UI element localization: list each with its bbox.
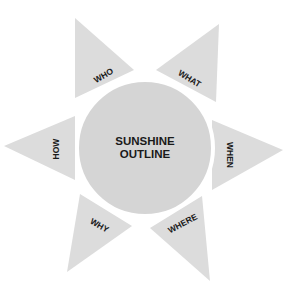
sunshine-outline-diagram: SUNSHINE OUTLINE WHO WHAT WHEN WHERE WHY… xyxy=(0,0,283,288)
ray-how xyxy=(4,116,75,180)
center-title-line1: SUNSHINE xyxy=(115,135,175,147)
ray-label-when: WHEN xyxy=(225,142,235,168)
ray-when xyxy=(212,120,283,190)
ray-label-how: HOW xyxy=(51,138,61,160)
center-title-line2: OUTLINE xyxy=(120,148,171,160)
